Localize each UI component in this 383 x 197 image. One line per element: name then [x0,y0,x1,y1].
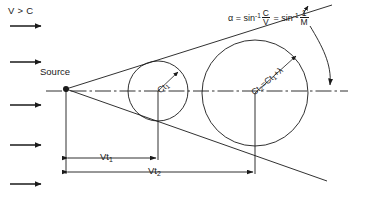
alpha-asin: sin [244,13,256,23]
alpha-fraction-cv: CV [262,9,270,27]
alpha-frac1-num: C [262,9,270,18]
diagram-canvas [0,0,383,197]
mach-angle-formula: α = sin-1CV = sin-11M [228,9,310,27]
mach-cone-diagram: V > C Source Ct1 Ct2=Ct1+λ Vt1 Vt2 α = s… [0,0,383,197]
source-label: Source [40,67,70,77]
alpha-equals: = [236,13,241,23]
alpha-frac1-den: V [262,17,270,27]
vt2-label-main: Vt [148,165,157,176]
alpha-frac2-num: 1 [300,9,309,18]
alpha-equals-2: = [273,13,278,23]
alpha-frac2-den: M [300,17,309,27]
vt1-dimension-label: Vt1 [100,152,113,164]
flow-velocity-label: V > C [8,6,34,16]
vt1-label-main: Vt [100,151,109,162]
flow-arrow-group [10,26,41,184]
vt2-dimension-label: Vt2 [148,166,161,178]
alpha-symbol: α [228,13,233,23]
alpha-asin-2: sin [281,13,293,23]
vt2-label-sub: 2 [157,170,161,177]
alpha-exponent-2: -1 [293,12,299,19]
alpha-exponent: -1 [255,12,261,19]
alpha-leader-arrow [310,26,330,85]
vt1-label-sub: 1 [109,156,113,163]
alpha-fraction-1m: 1M [300,9,309,27]
